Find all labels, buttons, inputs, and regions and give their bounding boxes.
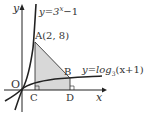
curve1-label: y=3x−1 [38, 5, 78, 17]
curve2-label: y=log3(x+1) [81, 64, 144, 77]
graph: y x O y=3x−1 A(2, 8) B y=log3(x+1) C D [0, 0, 148, 117]
point-D-label: D [66, 92, 74, 103]
point-A-label: A(2, 8) [34, 30, 69, 41]
y-axis-label: y [12, 2, 20, 15]
right-angle-mark-D [70, 86, 74, 90]
point-C-label: C [30, 92, 38, 103]
origin-label: O [11, 78, 20, 91]
x-axis-label: x [96, 91, 103, 104]
y-axis-arrow-icon [20, 4, 25, 10]
x-axis-arrow-icon [102, 88, 107, 93]
point-B-label: B [64, 66, 71, 77]
